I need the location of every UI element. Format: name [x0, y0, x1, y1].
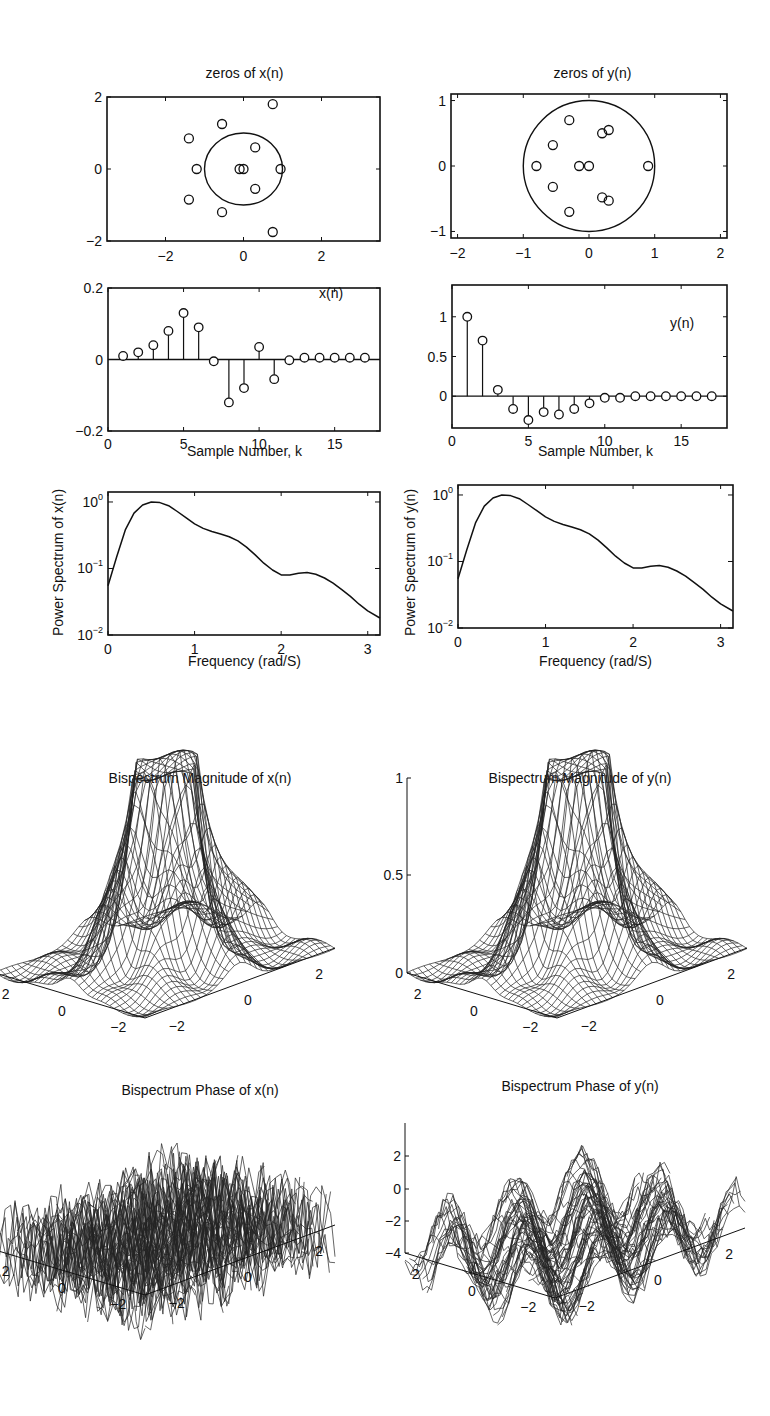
- stem-marker: [539, 408, 548, 417]
- tick-label: 3: [717, 634, 725, 650]
- tick-label: 0: [244, 992, 252, 1008]
- tick-label: 0: [448, 433, 456, 449]
- tick-label: 2: [315, 1243, 323, 1259]
- psd-x-plot: 012310010−110−2 Power Spectrum of x(n) F…: [0, 460, 385, 680]
- stem-marker: [570, 405, 579, 414]
- tick-label: 0: [585, 245, 593, 261]
- bispec-phase-x-plot: Bispectrum Phase of x(n) 20−2−4−202−202: [0, 1060, 385, 1360]
- tick-label: 1: [438, 93, 446, 109]
- tick-label: −2: [522, 1019, 538, 1035]
- tick-label: −2: [110, 1296, 126, 1312]
- stem-marker: [707, 392, 716, 401]
- stem-marker: [164, 327, 173, 336]
- spectrum-curve: [458, 495, 733, 611]
- tick-label: 0: [454, 634, 462, 650]
- stem-marker: [240, 384, 249, 393]
- axes-frame: [458, 485, 733, 628]
- zero-marker: [251, 143, 260, 152]
- stem-marker: [524, 416, 533, 425]
- zero-marker: [184, 195, 193, 204]
- zero-marker: [585, 162, 594, 171]
- tick-label: 0: [656, 992, 664, 1008]
- stem-y-plot: 05101510.50 y(n) Sample Number, k: [385, 260, 770, 460]
- tick-label: 2: [393, 1148, 401, 1164]
- stem-marker: [662, 392, 671, 401]
- bispec-mag-y-surface: 10.50−202−202: [385, 760, 770, 1060]
- stem-marker: [330, 353, 339, 362]
- tick-label: 10−2: [427, 618, 453, 636]
- psd-y-plot: 012310010−110−2 Power Spectrum of y(n) F…: [385, 460, 770, 680]
- tick-label: 10−1: [77, 558, 103, 576]
- tick-label: 0: [439, 388, 447, 404]
- psd-x-ylabel: Power Spectrum of x(n): [50, 489, 66, 636]
- stem-marker: [194, 323, 203, 332]
- tick-label: −2: [110, 1019, 126, 1035]
- psd-y-axes: 012310010−110−2: [385, 460, 770, 680]
- stem-marker: [478, 336, 487, 345]
- stem-marker: [345, 353, 354, 362]
- zeros-x-axes: −20220−2: [0, 0, 385, 260]
- tick-label: −1: [430, 223, 446, 239]
- zero-marker: [184, 134, 193, 143]
- tick-label: 0.5: [428, 349, 448, 365]
- zero-marker: [565, 207, 574, 216]
- psd-y-ylabel: Power Spectrum of y(n): [402, 489, 418, 636]
- tick-label: 0.5: [384, 867, 404, 883]
- bispec-phase-x-surface: 20−2−4−202−202: [0, 1060, 385, 1360]
- tick-label: 2: [629, 634, 637, 650]
- tick-label: 0: [95, 352, 103, 368]
- zero-marker: [268, 100, 277, 109]
- zero-marker: [218, 120, 227, 129]
- stem-marker: [255, 343, 264, 352]
- tick-label: 2: [2, 986, 10, 1002]
- stem-marker: [555, 410, 564, 419]
- bispec-phase-y-surface: 20−2−4−202−202: [385, 1060, 770, 1360]
- mesh: [0, 750, 335, 1017]
- zero-marker: [192, 165, 201, 174]
- tick-label: 100: [82, 492, 103, 510]
- stem-marker: [463, 312, 472, 321]
- y-axis: [407, 973, 557, 1018]
- zero-marker: [644, 162, 653, 171]
- tick-label: −4: [385, 1245, 401, 1261]
- tick-label: 2: [2, 1263, 10, 1279]
- tick-label: 0: [58, 1003, 66, 1019]
- unit-circle: [523, 101, 654, 232]
- stem-marker: [677, 392, 686, 401]
- tick-label: 1: [439, 309, 447, 325]
- stem-marker: [119, 352, 128, 361]
- tick-label: −2: [520, 1299, 536, 1315]
- stem-marker: [270, 375, 279, 384]
- tick-label: 2: [717, 245, 725, 261]
- tick-label: 1: [542, 634, 550, 650]
- zeros-y-axes: −2−101210−1: [385, 0, 770, 260]
- stem-x-xlabel: Sample Number, k: [107, 443, 382, 459]
- stem-marker: [585, 399, 594, 408]
- axes-frame: [108, 492, 380, 635]
- bispec-phase-y-plot: Bispectrum Phase of y(n) 20−2−4−202−202: [385, 1060, 770, 1360]
- mesh: [0, 1143, 335, 1340]
- tick-label: 2: [414, 986, 422, 1002]
- stem-marker: [285, 356, 294, 365]
- tick-label: 2: [412, 1266, 420, 1282]
- stem-marker: [225, 398, 234, 407]
- stem-marker: [600, 394, 609, 403]
- stem-marker: [494, 386, 503, 395]
- stem-marker: [361, 353, 370, 362]
- psd-y-xlabel: Frequency (rad/S): [458, 653, 733, 669]
- tick-label: −2: [169, 1018, 185, 1034]
- stem-marker: [616, 394, 625, 403]
- tick-label: 0: [94, 161, 102, 177]
- tick-label: 100: [432, 485, 453, 503]
- stem-marker: [631, 392, 640, 401]
- axes-frame: [451, 94, 727, 238]
- zero-marker: [276, 165, 285, 174]
- tick-label: 0: [654, 1272, 662, 1288]
- zero-marker: [268, 228, 277, 237]
- bispec-mag-x-plot: Bispectrum Magnitude of x(n) 10.50−202−2…: [0, 760, 385, 1060]
- tick-label: 2: [315, 966, 323, 982]
- zero-marker: [532, 162, 541, 171]
- tick-label: 2: [727, 966, 735, 982]
- tick-label: −2: [581, 1018, 597, 1034]
- tick-label: 2: [725, 1246, 733, 1262]
